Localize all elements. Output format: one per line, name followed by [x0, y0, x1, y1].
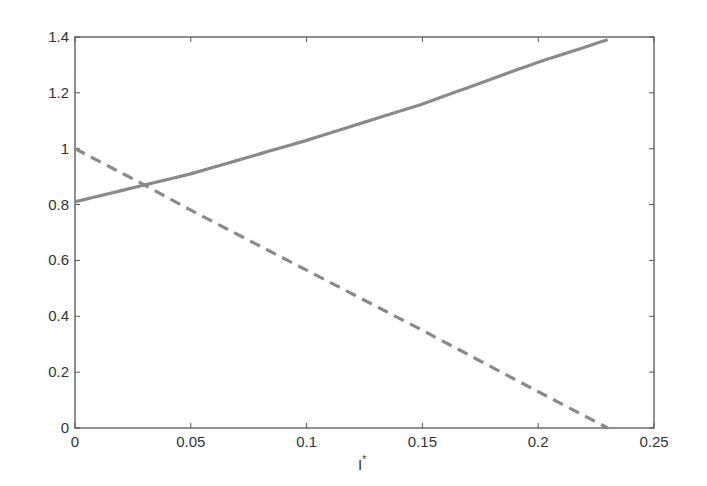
line-chart: 00.050.10.150.20.2500.20.40.60.811.21.4 …: [0, 0, 707, 486]
y-tick-label: 1.4: [48, 28, 69, 45]
series-solid-line: [75, 40, 608, 202]
axis-ticks: 00.050.10.150.20.2500.20.40.60.811.21.4: [48, 28, 668, 450]
y-tick-label: 0.6: [48, 251, 69, 268]
series-dashed-line: [75, 149, 608, 428]
x-tick-label: 0.05: [176, 433, 205, 450]
x-tick-label: 0.25: [639, 433, 668, 450]
x-tick-label: 0.2: [528, 433, 549, 450]
x-tick-label: 0.1: [296, 433, 317, 450]
plot-frame: [75, 37, 654, 428]
y-tick-label: 1.2: [48, 84, 69, 101]
y-tick-label: 0.4: [48, 307, 69, 324]
y-tick-label: 0.2: [48, 363, 69, 380]
data-series: [75, 40, 608, 428]
x-axis-label: I*: [358, 454, 366, 473]
x-tick-label: 0.15: [408, 433, 437, 450]
x-tick-label: 0: [71, 433, 79, 450]
y-tick-label: 0.8: [48, 196, 69, 213]
axes-box: [75, 37, 654, 428]
y-tick-label: 0: [61, 419, 69, 436]
y-tick-label: 1: [61, 140, 69, 157]
